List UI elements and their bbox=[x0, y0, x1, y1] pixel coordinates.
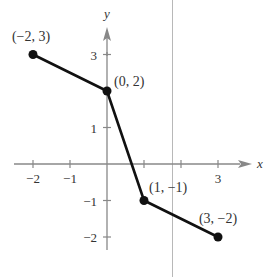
data-point bbox=[29, 50, 38, 59]
y-axis-label: y bbox=[102, 6, 110, 21]
y-tick-label: −2 bbox=[83, 230, 97, 245]
y-tick-label: 3 bbox=[91, 48, 98, 63]
x-axis-arrow-icon bbox=[238, 160, 252, 168]
function-graph: xy −2−13−2−113 (−2, 3)(0, 2)(1, −1)(3, −… bbox=[0, 0, 270, 277]
point-label: (3, −2) bbox=[199, 211, 238, 227]
x-axis-label: x bbox=[256, 156, 263, 171]
x-tick-label: −2 bbox=[26, 171, 40, 186]
point-label: (−2, 3) bbox=[12, 29, 51, 45]
x-tick-label: −1 bbox=[63, 171, 77, 186]
y-tick-label: 1 bbox=[91, 121, 98, 136]
data-point bbox=[103, 87, 112, 96]
y-tick-label: −1 bbox=[83, 194, 97, 209]
data-point bbox=[214, 233, 223, 242]
point-label: (0, 2) bbox=[114, 74, 145, 90]
point-labels: (−2, 3)(0, 2)(1, −1)(3, −2) bbox=[12, 29, 238, 228]
x-tick-label: 3 bbox=[215, 171, 222, 186]
data-point bbox=[140, 196, 149, 205]
point-label: (1, −1) bbox=[149, 180, 188, 196]
